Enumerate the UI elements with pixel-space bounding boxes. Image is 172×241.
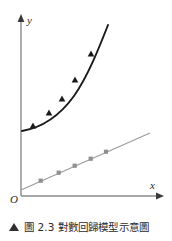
data-point-marker [46, 110, 53, 116]
figure-caption: 圖 2.3 對數回歸模型示意圖 [0, 212, 172, 241]
origin-label: O [10, 193, 18, 205]
y-axis-label: y [26, 14, 32, 26]
x-axis-label: x [149, 179, 155, 191]
chart-svg: y x O [0, 0, 172, 212]
data-point-marker [104, 150, 108, 154]
triangle-up-icon [9, 223, 19, 231]
chart-plot-area: y x O [0, 0, 172, 212]
figure-caption-text: 圖 2.3 對數回歸模型示意圖 [24, 221, 149, 233]
exponential-curve-marker-group [30, 51, 95, 129]
data-point-marker [89, 157, 93, 161]
data-point-marker [88, 51, 95, 57]
data-point-marker [73, 164, 77, 168]
figure-container: y x O [0, 0, 172, 241]
exponential-curve [22, 25, 108, 131]
y-axis-arrow-icon [18, 14, 25, 22]
data-point-marker [30, 123, 37, 129]
data-point-marker [59, 96, 66, 102]
x-axis-arrow-icon [156, 193, 164, 200]
data-point-marker [72, 77, 79, 83]
data-point-marker [39, 179, 43, 183]
data-point-marker [57, 171, 61, 175]
